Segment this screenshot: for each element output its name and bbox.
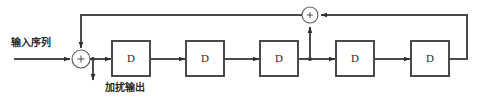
scrambled-output-label: 加扰输出 <box>105 83 145 93</box>
delay-5: D <box>411 41 449 76</box>
delay-4: D <box>336 41 374 76</box>
delay-2-label: D <box>201 52 209 64</box>
delay-5-label: D <box>426 52 434 64</box>
delay-3-label: D <box>275 52 283 64</box>
delay-2: D <box>186 41 224 76</box>
input-sequence-label: 输入序列 <box>11 38 51 48</box>
scrambler-diagram: D D D D D <box>0 0 478 102</box>
input-adder <box>72 50 90 68</box>
feedback-adder <box>302 7 318 23</box>
delay-1-label: D <box>127 52 135 64</box>
delay-4-label: D <box>351 52 359 64</box>
diagram-canvas: D D D D D <box>0 0 478 102</box>
delay-1: D <box>112 41 150 76</box>
delay-3: D <box>260 41 298 76</box>
